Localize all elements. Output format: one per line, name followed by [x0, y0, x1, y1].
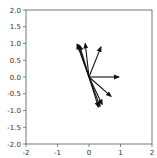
- x-tick-label: 0: [87, 149, 91, 157]
- y-tick-label: 2.0: [10, 7, 21, 15]
- y-tick-label: 0.0: [10, 74, 21, 82]
- y-tick-label: 0.5: [10, 57, 21, 65]
- quiver-chart: 2.01.51.00.50.0-0.5-1.0-1.5-2.0 -2-1012: [0, 0, 157, 158]
- y-tick-label: -1.5: [7, 124, 21, 132]
- y-tick-label: -0.5: [7, 90, 21, 98]
- x-tick-label: 1: [118, 149, 122, 157]
- x-tick-label: -1: [54, 149, 61, 157]
- y-tick-label: 1.5: [10, 23, 21, 31]
- y-tick-label: 1.0: [10, 40, 21, 48]
- y-axis: 2.01.51.00.50.0-0.5-1.0-1.5-2.0: [7, 7, 26, 149]
- x-tick-label: -2: [23, 149, 30, 157]
- y-tick-label: -2.0: [7, 141, 21, 149]
- x-axis: -2-1012: [23, 144, 155, 157]
- y-tick-label: -1.0: [7, 107, 21, 115]
- x-tick-label: 2: [150, 149, 154, 157]
